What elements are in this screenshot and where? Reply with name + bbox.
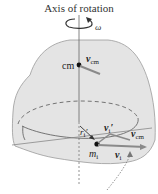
mass-subscript: i: [96, 153, 98, 161]
vector-subscript: cm: [135, 133, 144, 141]
vector-subscript: i: [119, 154, 121, 162]
rigid-body-shape: [12, 40, 155, 164]
particle-mass-label: mi: [89, 149, 98, 161]
v-cm-label-top: vcm: [86, 54, 99, 66]
v-i-label: vi: [115, 150, 121, 162]
center-of-mass-label: cm: [62, 61, 74, 71]
prime-mark: ′: [110, 122, 113, 133]
v-i-prime-label: vi′: [104, 123, 113, 135]
axis-of-rotation-title: Axis of rotation: [0, 3, 158, 14]
rigid-body-diagram: [0, 0, 158, 194]
v-cm-label-bottom: vcm: [131, 129, 144, 141]
omega-label: ω: [95, 23, 101, 32]
r-i-prime-label: ri′: [80, 128, 87, 139]
vector-subscript: cm: [90, 58, 99, 66]
prime-mark: ′: [85, 127, 87, 137]
